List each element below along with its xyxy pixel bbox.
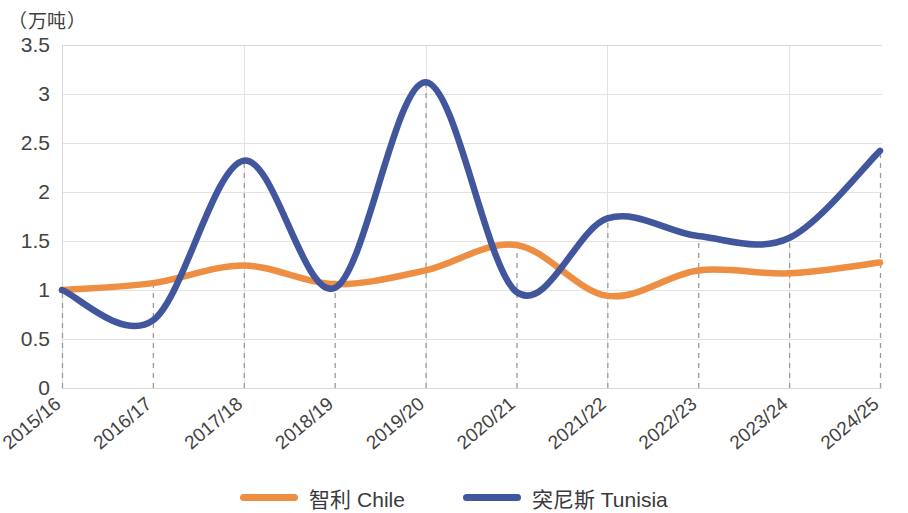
chart-legend: 智利 Chile 突尼斯 Tunisia	[0, 482, 908, 513]
series-line-tunisia	[62, 82, 880, 326]
legend-item-tunisia[interactable]: 突尼斯 Tunisia	[463, 483, 668, 513]
gridlines-group	[62, 45, 882, 389]
x-tick-label: 2018/19	[271, 393, 337, 453]
x-tick-label: 2022/23	[635, 393, 701, 453]
series-lines-group	[62, 82, 880, 326]
x-tick-label: 2023/24	[726, 393, 792, 454]
x-tick-label: 2020/21	[453, 393, 519, 453]
legend-swatch-tunisia	[463, 494, 521, 501]
legend-label-tunisia: 突尼斯 Tunisia	[532, 483, 668, 513]
legend-item-chile[interactable]: 智利 Chile	[240, 483, 405, 513]
x-tick-label: 2021/22	[544, 393, 610, 453]
x-tick-label: 2024/25	[816, 393, 882, 453]
y-tick-label: 0.5	[21, 327, 50, 350]
y-tick-label: 2.5	[21, 131, 50, 154]
y-tick-label: 1	[38, 278, 50, 301]
y-tick-labels-group: 00.511.522.533.5	[21, 33, 50, 399]
legend-label-chile: 智利 Chile	[309, 483, 405, 513]
y-tick-label: 2	[38, 180, 50, 203]
legend-swatch-chile	[240, 494, 298, 501]
x-tick-label: 2017/18	[180, 393, 246, 453]
x-tick-labels-group: 2015/162016/172017/182018/192019/202020/…	[0, 393, 883, 454]
y-tick-label: 1.5	[21, 229, 50, 252]
x-tick-label: 2016/17	[89, 393, 155, 453]
category-droplines-group	[63, 82, 881, 388]
x-tick-label: 2015/16	[0, 393, 65, 453]
y-tick-label: 3.5	[21, 33, 50, 56]
chart-plot-area: 00.511.522.533.5 2015/162016/172017/1820…	[0, 0, 908, 513]
y-tick-label: 3	[38, 82, 50, 105]
axis-lines-group	[62, 45, 882, 389]
x-tick-label: 2019/20	[362, 393, 428, 453]
line-chart: （万吨） 00.511.522.533.5 2015/162016/172017…	[0, 0, 908, 513]
